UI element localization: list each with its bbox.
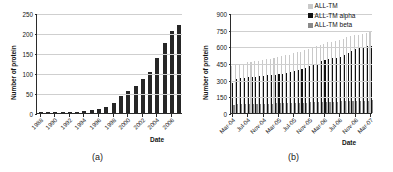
bar — [299, 103, 300, 113]
bar — [253, 104, 254, 113]
bar — [295, 103, 296, 113]
legend-b: ALL-TM ALL-TM alpha ALL-TM beta — [308, 3, 355, 32]
bar — [314, 102, 315, 113]
bar — [104, 107, 108, 113]
bar — [322, 102, 323, 113]
bar — [148, 72, 152, 113]
bar — [352, 101, 353, 113]
bar — [306, 103, 307, 113]
bar — [272, 104, 273, 113]
bar — [260, 104, 261, 113]
y-axis-tick — [229, 47, 232, 48]
y-axis-tick — [229, 97, 232, 98]
y-axis-tick-label: 900 — [208, 11, 227, 18]
gridline — [37, 74, 182, 75]
y-axis-tick — [35, 14, 38, 15]
bar — [75, 112, 79, 113]
bar — [337, 102, 338, 113]
x-axis-tick — [247, 114, 248, 117]
bar — [280, 103, 281, 113]
y-axis-tick — [229, 81, 232, 82]
y-axis-tick-label: 150 — [14, 51, 33, 58]
bar — [256, 104, 257, 113]
y-axis-tick — [35, 114, 38, 115]
bar — [356, 101, 357, 113]
plot-area-a — [36, 14, 182, 114]
bar — [245, 104, 246, 113]
bar — [68, 112, 72, 113]
bar — [345, 101, 346, 113]
y-axis-tick-label: 0 — [14, 111, 33, 118]
bar — [119, 96, 123, 113]
legend-label-all-tm-alpha: ALL-TM alpha — [315, 13, 356, 20]
gridline — [37, 34, 182, 35]
legend-swatch-icon-all-tm-beta — [308, 23, 313, 28]
legend-label-all-tm: ALL-TM — [315, 3, 338, 10]
gridline — [231, 47, 372, 48]
y-axis-label-b: Number of protein — [202, 45, 209, 100]
bar — [268, 104, 269, 113]
x-axis-tick — [98, 114, 99, 117]
y-axis-tick — [35, 74, 38, 75]
bar — [310, 102, 311, 113]
bar — [341, 101, 342, 113]
gridline — [231, 97, 372, 98]
y-axis-tick-label: 0 — [208, 111, 227, 118]
bar — [283, 103, 284, 113]
bar — [368, 101, 369, 113]
legend-item-all-tm-alpha: ALL-TM alpha — [308, 13, 355, 20]
bar — [329, 102, 330, 113]
y-axis-tick-label: 50 — [14, 91, 33, 98]
bar — [61, 112, 65, 113]
bar — [287, 103, 288, 113]
bar — [360, 101, 361, 113]
y-axis-tick-label: 300 — [208, 77, 227, 84]
bar — [134, 86, 138, 113]
y-axis-tick — [229, 64, 232, 65]
y-axis-tick-label: 750 — [208, 27, 227, 34]
legend-swatch-icon-all-tm — [308, 4, 313, 9]
bar — [53, 112, 57, 113]
y-axis-tick — [229, 114, 232, 115]
bar — [276, 103, 277, 113]
bar — [333, 102, 334, 113]
figure-container: Number of protein Date (a) 0501001502002… — [0, 0, 393, 172]
bar — [349, 101, 350, 113]
x-axis-tick — [156, 114, 157, 117]
x-axis-tick — [370, 114, 371, 117]
y-axis-tick — [229, 14, 232, 15]
bar — [264, 104, 265, 113]
y-axis-tick — [229, 31, 232, 32]
bar — [249, 104, 250, 113]
legend-label-all-tm-beta: ALL-TM beta — [315, 22, 353, 29]
bar — [291, 103, 292, 113]
bar — [39, 112, 43, 113]
bar — [303, 103, 304, 113]
y-axis-tick — [35, 54, 38, 55]
bar — [46, 112, 50, 113]
y-axis-tick — [35, 94, 38, 95]
gridline — [37, 14, 182, 15]
bar — [372, 100, 373, 113]
chart-panel-a: Number of protein Date (a) 0501001502002… — [0, 0, 196, 172]
x-axis-tick — [83, 114, 84, 117]
x-axis-tick — [127, 114, 128, 117]
x-axis-tick — [324, 114, 325, 117]
bar — [237, 104, 238, 113]
bar — [233, 105, 234, 113]
bar — [90, 110, 94, 113]
y-axis-tick-label: 150 — [208, 94, 227, 101]
x-axis-tick — [171, 114, 172, 117]
legend-item-all-tm-beta: ALL-TM beta — [308, 22, 355, 29]
y-axis-tick-label: 450 — [208, 61, 227, 68]
chart-panel-b: Number of protein ALL-TM ALL-TM alpha AL… — [196, 0, 393, 172]
bar — [241, 104, 242, 113]
bar — [177, 25, 181, 113]
bar — [112, 103, 116, 113]
bar — [326, 102, 327, 113]
y-axis-tick — [35, 34, 38, 35]
x-axis-tick — [293, 114, 294, 117]
bar — [364, 101, 365, 113]
bar — [155, 58, 159, 113]
bar — [82, 111, 86, 113]
